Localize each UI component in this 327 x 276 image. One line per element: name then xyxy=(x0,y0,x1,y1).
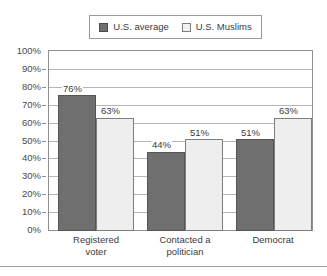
y-tick-label-40: 40% xyxy=(22,154,41,164)
y-tick-label-100: 100% xyxy=(17,46,41,56)
y-tick-label-0: 0% xyxy=(27,225,41,235)
gridline-30 xyxy=(49,176,312,177)
gridline-70 xyxy=(49,105,312,106)
dark-square-swatch-icon xyxy=(99,23,108,32)
x-tick-label-contacted-politician: Contacted a politician xyxy=(137,234,233,258)
y-tick-mark-50 xyxy=(42,141,46,142)
y-tick-label-60: 60% xyxy=(22,118,41,128)
y-tick-mark-30 xyxy=(42,176,46,177)
bar-chart: U.S. average U.S. Muslims 100% 90% 80% 7… xyxy=(0,0,327,276)
gridlines xyxy=(49,51,312,230)
x-axis: Registered voter Contacted a politician … xyxy=(48,234,313,266)
legend-entry-us-average: U.S. average xyxy=(99,22,168,32)
y-tick-label-80: 80% xyxy=(22,82,41,92)
gridline-90 xyxy=(49,69,312,70)
y-axis: 100% 90% 80% 70% 60% 50% 40% 30% 20% 10%… xyxy=(0,50,46,231)
y-tick-label-20: 20% xyxy=(22,189,41,199)
y-tick-mark-10 xyxy=(42,212,46,213)
y-tick-mark-40 xyxy=(42,158,46,159)
y-tick-label-90: 90% xyxy=(22,64,41,74)
plot-area xyxy=(48,50,313,231)
y-tick-mark-70 xyxy=(42,105,46,106)
y-tick-mark-60 xyxy=(42,123,46,124)
y-tick-label-10: 10% xyxy=(22,207,41,217)
legend-entry-us-muslims: U.S. Muslims xyxy=(182,22,252,32)
bottom-divider xyxy=(0,266,327,267)
gridline-80 xyxy=(49,87,312,88)
y-tick-mark-80 xyxy=(42,87,46,88)
y-tick-mark-20 xyxy=(42,194,46,195)
x-tick-label-registered-voter: Registered voter xyxy=(48,234,144,258)
gridline-10 xyxy=(49,212,312,213)
gridline-50 xyxy=(49,141,312,142)
y-tick-mark-90 xyxy=(42,69,46,70)
gridline-60 xyxy=(49,123,312,124)
light-square-swatch-icon xyxy=(182,23,191,32)
legend-label-us-average: U.S. average xyxy=(113,22,168,32)
chart-legend: U.S. average U.S. Muslims xyxy=(89,15,262,39)
x-tick-label-democrat: Democrat xyxy=(225,234,321,246)
y-tick-label-30: 30% xyxy=(22,172,41,182)
y-tick-label-70: 70% xyxy=(22,100,41,110)
gridline-20 xyxy=(49,194,312,195)
y-tick-label-50: 50% xyxy=(22,136,41,146)
legend-label-us-muslims: U.S. Muslims xyxy=(196,22,252,32)
gridline-40 xyxy=(49,158,312,159)
